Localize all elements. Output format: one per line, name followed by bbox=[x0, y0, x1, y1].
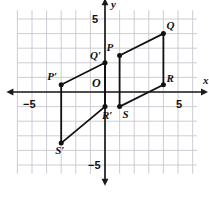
point-label-PQRS-S: S′ bbox=[55, 145, 64, 156]
point-label-PQRS-P: P′ bbox=[47, 71, 57, 82]
point-label-PQRS-S: S bbox=[123, 109, 129, 120]
point-label-PQRS-Q: Q bbox=[166, 20, 174, 31]
point-label-PQRS-Q: Q′ bbox=[90, 50, 101, 61]
origin-label: O bbox=[92, 77, 101, 89]
point-label-PQRS-R: R bbox=[166, 73, 173, 84]
point-label-PQRS-R: R′ bbox=[102, 110, 112, 121]
x-axis-label: x bbox=[203, 75, 209, 86]
x-tick-positive-5: 5 bbox=[176, 99, 182, 110]
y-tick-positive-5: 5 bbox=[92, 14, 98, 25]
x-tick-negative-5: −5 bbox=[23, 99, 36, 110]
y-axis-label: y bbox=[111, 0, 116, 10]
coordinate-plane-figure: x y −5 5 5 −5 O PQRSP′Q′R′S′ bbox=[0, 0, 209, 201]
point-label-PQRS-P: P bbox=[107, 42, 114, 53]
y-tick-negative-5: −5 bbox=[88, 160, 101, 171]
